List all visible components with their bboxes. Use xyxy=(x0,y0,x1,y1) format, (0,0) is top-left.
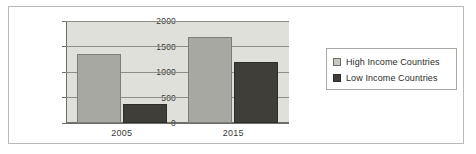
legend-swatch-high-income-icon xyxy=(333,58,341,66)
bar-low-income-2015 xyxy=(234,62,278,123)
legend-item-low-income: Low Income Countries xyxy=(333,70,456,86)
x-axis-tick-label: 2015 xyxy=(223,128,244,138)
bar-high-income-2005 xyxy=(77,54,121,123)
bar-high-income-2015 xyxy=(188,37,232,123)
legend-label-high-income: High Income Countries xyxy=(346,57,440,67)
chart-legend: High Income Countries Low Income Countri… xyxy=(326,48,457,90)
legend-swatch-low-income-icon xyxy=(333,74,341,82)
chart-figure: 0500100015002000 20052015 High Income Co… xyxy=(8,6,464,144)
gridline xyxy=(66,46,289,47)
x-axis-tick-label: 2005 xyxy=(111,128,132,138)
bar-low-income-2005 xyxy=(123,104,167,123)
gridline xyxy=(66,21,289,22)
legend-item-high-income: High Income Countries xyxy=(333,54,456,70)
legend-label-low-income: Low Income Countries xyxy=(346,73,438,83)
